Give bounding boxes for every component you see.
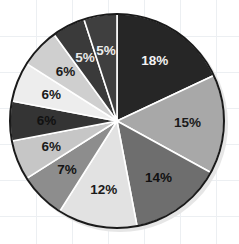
pie-slice-label: 6% bbox=[42, 139, 62, 154]
pie-slice-label: 5% bbox=[96, 43, 116, 58]
pie-slice-label: 6% bbox=[37, 113, 57, 128]
pie-chart: 18%15%14%12%7%6%6%6%6%5%5% bbox=[0, 0, 239, 244]
pie-slice-label: 6% bbox=[42, 87, 62, 102]
pie-chart-canvas: 18%15%14%12%7%6%6%6%6%5%5% bbox=[0, 0, 239, 244]
pie-slice-label: 18% bbox=[141, 53, 168, 68]
pie-slice-label: 5% bbox=[75, 50, 95, 65]
pie-slice-label: 12% bbox=[90, 182, 117, 197]
pie-slice-label: 7% bbox=[57, 162, 77, 177]
pie-slice-label: 14% bbox=[145, 170, 172, 185]
pie-slice-label: 6% bbox=[56, 64, 76, 79]
pie-slice-label: 15% bbox=[174, 115, 201, 130]
